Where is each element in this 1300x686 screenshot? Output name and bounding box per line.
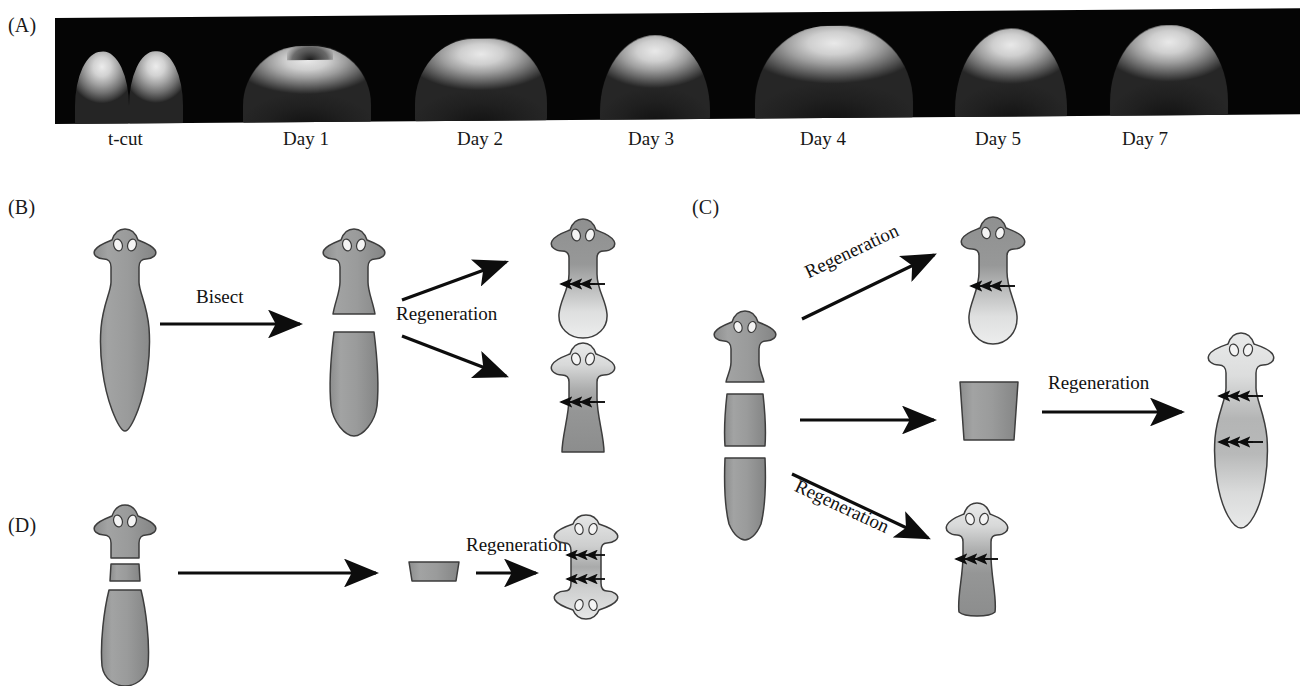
micrograph-day5 (955, 28, 1067, 121)
micrograph-tcut-right-lobe (129, 51, 183, 124)
panel-a-micrograph-strip (55, 8, 1300, 124)
panel-d-sliced-worm-tail (84, 588, 166, 686)
micrograph-day1-notch (287, 44, 333, 60)
panel-c-regen-arrow-right (1042, 404, 1194, 420)
panel-d-thin-slice-in-situ (84, 562, 166, 584)
panel-d-isolated-thin-slice (404, 558, 464, 586)
panel-d-bipolar-regenerate (540, 512, 632, 622)
panel-a-timepoint-labels: t-cut Day 1 Day 2 Day 3 Day 4 Day 5 Day … (0, 128, 1300, 158)
micrograph-day4 (755, 25, 913, 122)
panel-c-regeneration-label-right: Regeneration (1048, 372, 1149, 394)
panel-b-bisect-label: Bisect (196, 286, 244, 308)
panel-c-head-piece (705, 308, 785, 388)
panel-d-isolate-arrow (178, 565, 388, 581)
panel-c-trunk-piece (705, 392, 785, 450)
panel-b-bisect-arrow (160, 316, 312, 332)
panel-b-regen-arrow-down (400, 330, 520, 386)
timepoint-label-tcut: t-cut (108, 128, 143, 150)
panel-c-regenerated-head-piece (950, 214, 1036, 348)
timepoint-label-day1: Day 1 (283, 128, 329, 150)
panel-c-letter: (C) (692, 196, 719, 219)
timepoint-label-day3: Day 3 (628, 128, 674, 150)
panel-d-letter: (D) (8, 514, 36, 537)
panel-b-regeneration-label: Regeneration (396, 303, 497, 325)
micrograph-day7 (1110, 25, 1228, 120)
panel-c-regenerated-tail-piece (935, 500, 1019, 618)
panel-b-letter: (B) (8, 196, 35, 219)
panel-c-isolated-trunk-fragment (952, 378, 1026, 446)
panel-a-letter: (A) (8, 14, 36, 37)
planarian-regeneration-figure: (A) t-cut Day 1 Day 2 Day 3 Day 4 Day 5 … (0, 0, 1300, 686)
panel-b-regenerated-tail-fragment (540, 340, 626, 470)
panel-c-tail-piece (705, 456, 785, 542)
micrograph-day3 (600, 35, 710, 124)
panel-b-regen-arrow-up (400, 252, 520, 304)
panel-d-regen-arrow (476, 565, 548, 581)
panel-b-regenerated-head-fragment (540, 216, 626, 342)
panel-b-intact-worm (84, 226, 166, 434)
micrograph-day2 (415, 38, 547, 124)
panel-b-bisected-anterior (313, 226, 395, 326)
panel-c-trunk-isolate-arrow (800, 412, 946, 428)
timepoint-label-day4: Day 4 (800, 128, 846, 150)
timepoint-label-day2: Day 2 (457, 128, 503, 150)
timepoint-label-day7: Day 7 (1122, 128, 1168, 150)
timepoint-label-day5: Day 5 (975, 128, 1021, 150)
panel-b-bisected-posterior (313, 330, 395, 440)
panel-c-regenerated-trunk-worm (1192, 330, 1290, 530)
micrograph-tcut-left-lobe (75, 51, 129, 124)
